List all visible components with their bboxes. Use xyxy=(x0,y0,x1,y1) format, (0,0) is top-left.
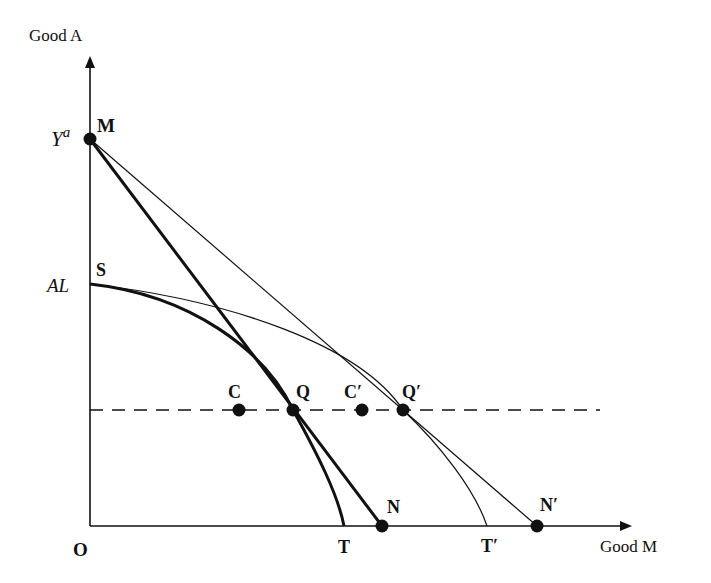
label-c-prime: C′ xyxy=(344,382,362,402)
ppf-curve xyxy=(90,284,344,526)
x-axis-arrow-icon xyxy=(620,521,632,531)
price-line-m-n xyxy=(90,139,382,526)
ya-label: Ya xyxy=(51,124,70,151)
point-c-prime xyxy=(356,404,369,417)
label-q: Q xyxy=(296,382,310,402)
trade-diagram: Good A Good M O Ya AL M S C Q C′ Q′ N N′… xyxy=(0,0,711,583)
point-q-prime xyxy=(397,404,410,417)
label-q-prime: Q′ xyxy=(402,382,421,402)
origin-label: O xyxy=(73,539,88,560)
label-n-prime: N′ xyxy=(540,495,558,515)
y-axis-arrow-icon xyxy=(85,56,95,68)
label-m: M xyxy=(97,115,115,136)
al-label: AL xyxy=(45,275,69,296)
point-n xyxy=(376,520,389,533)
x-axis-label: Good M xyxy=(600,537,657,556)
point-n-prime xyxy=(531,520,544,533)
label-c: C xyxy=(228,382,241,402)
label-t-prime: T′ xyxy=(481,536,498,556)
label-n: N xyxy=(387,497,400,517)
point-q xyxy=(287,404,300,417)
price-line-m-nprime xyxy=(90,139,537,526)
ya-superscript: a xyxy=(63,124,71,140)
label-s: S xyxy=(96,260,106,280)
expanded-ppf-curve xyxy=(90,284,487,526)
point-m xyxy=(84,133,97,146)
axes xyxy=(85,56,632,531)
y-axis-label: Good A xyxy=(29,26,83,45)
point-c xyxy=(233,404,246,417)
label-t: T xyxy=(338,537,350,557)
